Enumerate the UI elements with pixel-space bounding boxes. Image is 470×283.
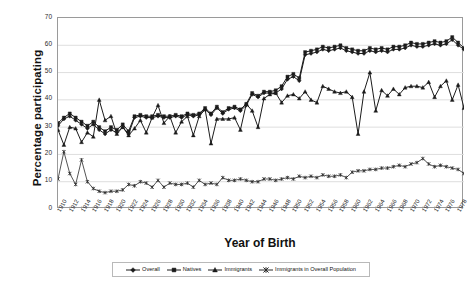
- y-tick-70: 70: [30, 14, 52, 21]
- legend-item-overall[interactable]: Overall: [126, 266, 160, 274]
- series-immigrants: [58, 71, 464, 147]
- y-axis-title: Percentage participating: [31, 23, 43, 213]
- y-tick-10: 10: [30, 177, 52, 184]
- legend-marker-star-icon: [259, 266, 273, 274]
- legend-label: Overall: [142, 267, 160, 273]
- y-tick-50: 50: [30, 68, 52, 75]
- legend-marker-diamond-icon: [126, 266, 140, 274]
- series-plot: [58, 18, 464, 209]
- chart-container: Percentage participating 010203040506070…: [0, 0, 470, 283]
- y-tick-60: 60: [30, 41, 52, 48]
- legend-item-natives[interactable]: Natives: [167, 266, 202, 274]
- y-tick-40: 40: [30, 95, 52, 102]
- plot-area: [57, 17, 463, 208]
- x-axis-title: Year of Birth: [57, 236, 463, 250]
- legend-marker-triangle-icon: [208, 266, 222, 274]
- series-immigrants-in-overall-population: [58, 150, 464, 195]
- y-tick-0: 0: [30, 205, 52, 212]
- y-tick-20: 20: [30, 150, 52, 157]
- legend-item-immigrants-in-overall-population[interactable]: Immigrants in Overall Population: [259, 266, 356, 274]
- series-natives: [58, 36, 464, 133]
- chart-legend: OverallNativesImmigrantsImmigrants in Ov…: [112, 262, 370, 277]
- legend-label: Natives: [183, 267, 202, 273]
- series-overall: [58, 38, 464, 136]
- legend-item-immigrants[interactable]: Immigrants: [208, 266, 252, 274]
- legend-label: Immigrants: [224, 267, 252, 273]
- legend-marker-square-icon: [167, 266, 181, 274]
- y-tick-30: 30: [30, 123, 52, 130]
- legend-label: Immigrants in Overall Population: [275, 267, 356, 273]
